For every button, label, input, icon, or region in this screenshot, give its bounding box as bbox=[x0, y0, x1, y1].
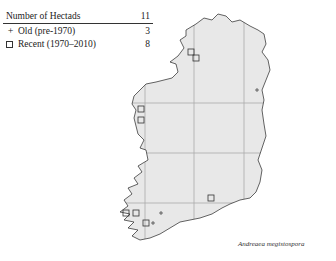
ireland-map bbox=[0, 0, 336, 261]
land-area bbox=[120, 14, 270, 240]
species-caption: Andreaea megistospora bbox=[238, 240, 304, 248]
